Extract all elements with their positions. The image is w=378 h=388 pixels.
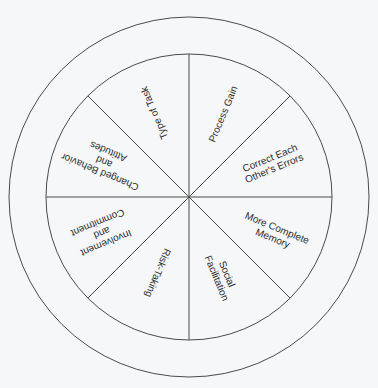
sector-divider-line <box>189 197 290 298</box>
wheel-graphic <box>0 0 378 388</box>
sector-divider-line <box>189 96 290 197</box>
group-factors-wheel-diagram: Process GainCorrect EachOther's ErrorsMo… <box>0 0 378 388</box>
